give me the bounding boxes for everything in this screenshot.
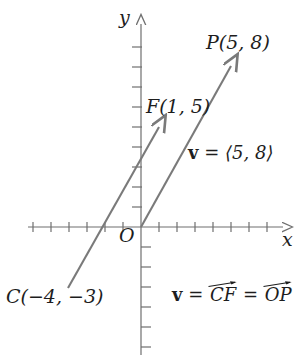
point-label-p: P(5, 8) — [206, 33, 270, 52]
origin-label: O — [119, 226, 135, 245]
vector-components: ⟨5, 8⟩ — [225, 142, 273, 163]
equals-sign-1: = — [188, 284, 203, 305]
segment-op-text: OP — [265, 284, 292, 305]
directed-segment-cf: CF — [209, 286, 237, 304]
vector-symbol-v-2: v — [172, 284, 182, 305]
point-label-c: C(−4, −3) — [6, 287, 103, 306]
point-label-f: F(1, 5) — [146, 97, 210, 116]
y-axis — [132, 24, 151, 355]
vector-diagram-figure: y x O P(5, 8) F(1, 5) C(−4, −3) v = ⟨5, … — [0, 0, 303, 360]
vector-equality-annotation: v = CF = OP — [172, 286, 293, 304]
equals-sign-2: = — [243, 284, 258, 305]
vector-cf — [68, 127, 159, 288]
vector-symbol-v: v — [188, 142, 198, 163]
vector-component-annotation: v = ⟨5, 8⟩ — [188, 144, 273, 162]
y-axis-label: y — [119, 8, 130, 27]
equals-sign: = — [204, 142, 219, 163]
x-axis — [28, 222, 283, 232]
segment-cf-text: CF — [210, 284, 236, 305]
directed-segment-op: OP — [264, 286, 293, 304]
x-axis-label: x — [282, 230, 293, 249]
